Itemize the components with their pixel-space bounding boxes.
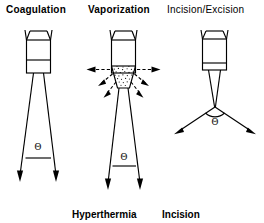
beam-vaporization	[105, 88, 143, 190]
panel-incision-excision: Θ	[174, 30, 256, 134]
angle-label-coagulation: Θ	[35, 142, 42, 152]
diagram-layer: Θ	[0, 0, 264, 223]
beam-incision	[209, 70, 221, 107]
panel-footer-hyperthermia: Hyperthermia	[72, 209, 136, 220]
probe-head-coagulation	[25, 30, 52, 73]
beam-coagulation	[17, 73, 59, 182]
probe-head-vaporization	[110, 30, 137, 73]
diagram-svg: Θ	[0, 0, 264, 223]
panel-coagulation: Θ	[17, 30, 59, 182]
laser-interaction-figure: Coagulation Vaporization Incision/Excisi…	[0, 0, 264, 223]
angle-label-vaporization: Θ	[121, 152, 128, 162]
vapor-plume	[112, 66, 136, 88]
panel-footer-incision: Incision	[162, 209, 200, 220]
panel-vaporization: Θ	[87, 30, 161, 190]
angle-label-incision: Θ	[212, 117, 219, 127]
probe-head-incision	[201, 30, 228, 70]
